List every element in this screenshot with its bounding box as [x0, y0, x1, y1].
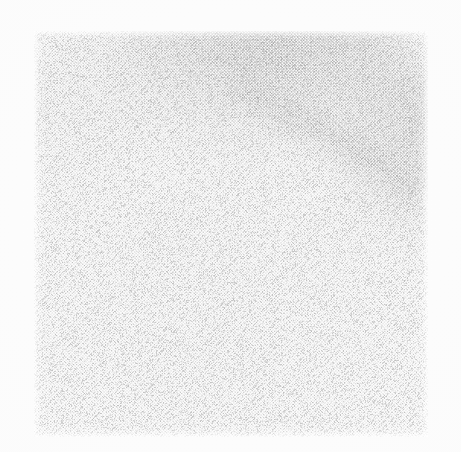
tone-region-shadow-top: [34, 31, 428, 437]
tone-region-haze-left: [34, 31, 428, 437]
streak-third: [286, 79, 413, 190]
tone-region-shadow-right: [34, 31, 428, 437]
streak-hairline-b: [292, 71, 377, 117]
streak-upper-shallow: [246, 109, 428, 165]
halftone-dot-grid-dark: [34, 31, 428, 437]
streak-secondary: [266, 83, 413, 192]
streak-lower-tail: [386, 179, 428, 219]
streak-primary: [250, 86, 416, 192]
halftone-weave-overlay: [34, 31, 428, 437]
diagonal-smudge: [220, 57, 428, 213]
tone-region-body: [34, 31, 428, 437]
halftone-scan-plate: [34, 31, 428, 437]
tone-region-corner-lift: [34, 31, 428, 437]
halftone-dot-grid-light: [34, 31, 428, 437]
plate-edge-feather: [34, 31, 428, 437]
streak-upper-faint: [234, 99, 395, 171]
streak-hairline-a: [280, 95, 405, 179]
scan-grain-overlay: [34, 31, 428, 437]
diagonal-streak-group: [34, 31, 428, 437]
scan-viewport: [0, 0, 461, 452]
